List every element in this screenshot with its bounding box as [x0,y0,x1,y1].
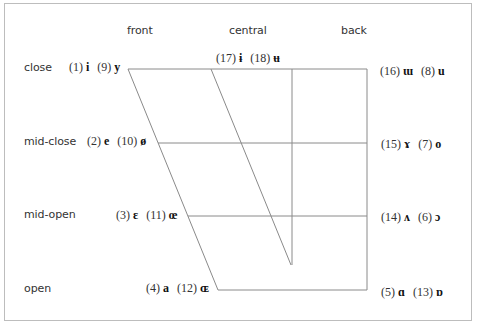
vowel-symbol: ɔ [435,210,440,224]
vowel-symbol: i [86,60,89,74]
vowel-symbol: œ [169,208,178,222]
vowel-number: (3) [116,208,130,222]
vowel-symbol: a [163,281,169,295]
vowel-number: (18) [250,51,270,65]
vowel-mid-open-back: (14) ʌ (6) ɔ [381,210,440,225]
vowel-number: (17) [216,51,236,65]
vowel-quadrilateral [0,0,477,329]
vowel-close-central: (17) ɨ (18) ʉ [216,51,280,66]
vowel-number: (6) [418,210,432,224]
row-label-mid-close: mid-close [24,135,76,148]
vowel-symbol: ɨ [239,51,242,65]
vowel-mid-close-back: (15) ɤ (7) o [381,137,441,152]
vowel-symbol: y [114,60,120,74]
column-header-central: central [229,24,267,37]
vowel-number: (5) [381,285,395,299]
vowel-number: (1) [69,60,83,74]
row-label-mid-open: mid-open [24,208,76,221]
vowel-symbol: ɒ [436,285,443,299]
vowel-number: (16) [380,64,400,78]
vowel-close-front: (1) i (9) y [69,60,120,75]
vowel-open-front: (4) a (12) ɶ [146,281,209,296]
column-header-front: front [127,24,153,37]
vowel-number: (9) [97,60,111,74]
vowel-mid-open-front: (3) ɛ (11) œ [116,208,177,223]
column-header-back: back [341,24,367,37]
vowel-number: (11) [146,208,166,222]
central-slant-line [211,69,291,265]
vowel-symbol: ɶ [200,281,209,295]
vowel-number: (13) [413,285,433,299]
vowel-symbol: ʌ [404,210,410,224]
vowel-number: (15) [381,137,401,151]
vowel-symbol: ʉ [273,51,280,65]
vowel-number: (10) [117,134,137,148]
vowel-symbol: ɛ [133,208,138,222]
vowel-number: (7) [418,137,432,151]
row-label-close: close [24,61,52,74]
vowel-symbol: o [435,137,441,151]
front-edge-line [128,69,218,290]
vowel-symbol: e [104,134,109,148]
vowel-number: (12) [177,281,197,295]
vowel-close-back: (16) ɯ (8) u [380,64,445,79]
vowel-number: (8) [421,64,435,78]
vowel-symbol: ɯ [403,64,413,78]
vowel-number: (4) [146,281,160,295]
vowel-open-back: (5) ɑ (13) ɒ [381,285,443,300]
vowel-symbol: ɑ [398,285,405,299]
vowel-symbol: u [438,64,445,78]
vowel-number: (2) [87,134,101,148]
row-label-open: open [24,282,51,295]
vowel-symbol: ø [140,134,146,148]
vowel-number: (14) [381,210,401,224]
vowel-mid-close-front: (2) e (10) ø [87,134,146,149]
vowel-symbol: ɤ [404,137,410,151]
